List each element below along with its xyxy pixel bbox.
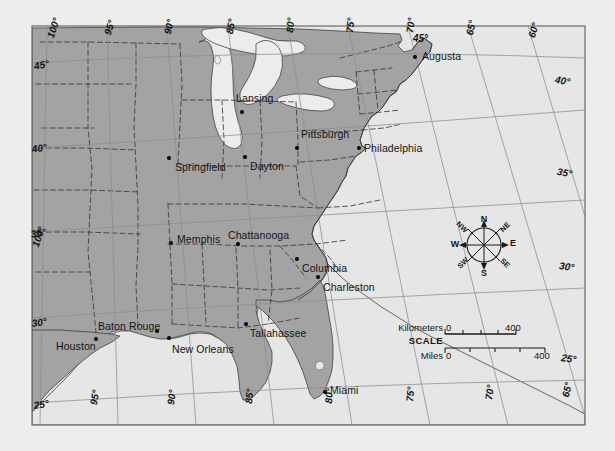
city-dot[interactable]: [169, 241, 172, 244]
city-dot[interactable]: [167, 156, 170, 159]
city-dot[interactable]: [243, 155, 246, 158]
city-dot[interactable]: [236, 242, 239, 245]
city-dot[interactable]: [295, 257, 298, 260]
city-dot[interactable]: [240, 110, 243, 113]
city-dot[interactable]: [357, 146, 360, 149]
map-figure: AugustaLansingPittsburghPhiladelphiaSpri…: [0, 0, 615, 451]
city-dot[interactable]: [323, 390, 326, 393]
city-dot[interactable]: [94, 337, 97, 340]
city-dot[interactable]: [413, 55, 416, 58]
map-canvas: [0, 0, 615, 451]
city-dot[interactable]: [316, 275, 319, 278]
city-dot[interactable]: [295, 146, 298, 149]
lake-okeechobee: [316, 361, 325, 370]
city-dot[interactable]: [167, 336, 170, 339]
city-dot[interactable]: [244, 322, 247, 325]
city-dot[interactable]: [155, 329, 158, 332]
